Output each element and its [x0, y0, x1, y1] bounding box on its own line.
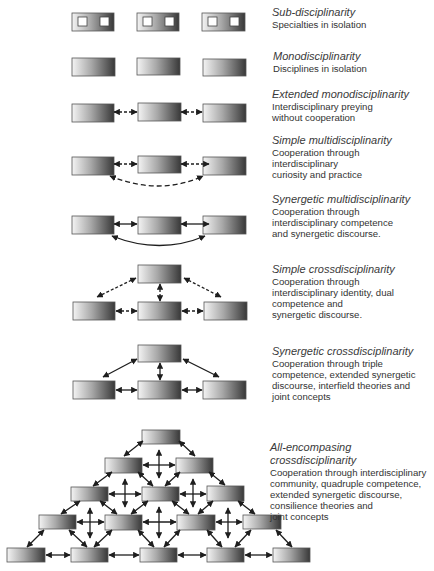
specialty-box [202, 13, 245, 31]
level-description: Cooperation through interdisciplinary id… [272, 276, 395, 320]
sub-disciplinarity-boxes [72, 13, 245, 31]
level-title: Simple multidisciplinarity [272, 134, 392, 147]
level-title: Synergetic multidisciplinarity [272, 193, 410, 206]
label-synergetic-multidisciplinarity: Synergetic multidisciplinarity Cooperati… [272, 193, 410, 239]
level-description: Interdisciplinary preying without cooper… [272, 101, 409, 123]
all-encompassing-pyramid [7, 430, 310, 562]
level-title: Monodisciplinarity [273, 50, 367, 63]
level-description: Specialties in isolation [272, 19, 366, 30]
level-title: Simple crossdisciplinarity [272, 263, 395, 276]
level-description: Cooperation through triple competence, e… [272, 358, 415, 402]
specialty-box [72, 13, 114, 31]
simple-crossdisciplinarity [73, 265, 247, 320]
extended-monodisciplinarity [72, 103, 246, 122]
level-title: Sub-disciplinarity [272, 6, 366, 19]
synergetic-crossdisciplinarity [73, 345, 246, 399]
level-title: All-encompasing crossdisciplinarity [270, 441, 434, 467]
synergetic-multidisciplinarity [72, 216, 246, 246]
level-description: Cooperation through interdisciplinary co… [270, 467, 434, 522]
specialty-box [137, 13, 179, 31]
label-all-encompassing-crossdisciplinarity: All-encompasing crossdisciplinarity Coop… [270, 441, 434, 522]
label-sub-disciplinarity: Sub-disciplinarity Specialties in isolat… [272, 6, 366, 30]
label-extended-monodisciplinarity: Extended monodisciplinarity Interdiscipl… [272, 88, 409, 123]
level-description: Cooperation through interdisciplinary cu… [272, 147, 392, 180]
simple-multidisciplinarity [72, 156, 246, 186]
level-description: Cooperation through interdisciplinary co… [272, 206, 410, 239]
label-monodisciplinarity: Monodisciplinarity Disciplines in isolat… [273, 50, 367, 74]
label-synergetic-crossdisciplinarity: Synergetic crossdisciplinarity Cooperati… [272, 345, 415, 402]
monodisciplinarity-boxes [72, 58, 246, 76]
label-simple-multidisciplinarity: Simple multidisciplinarity Cooperation t… [272, 134, 392, 180]
level-description: Disciplines in isolation [273, 63, 367, 74]
level-title: Synergetic crossdisciplinarity [272, 345, 415, 358]
label-simple-crossdisciplinarity: Simple crossdisciplinarity Cooperation t… [272, 263, 395, 320]
level-title: Extended monodisciplinarity [272, 88, 409, 101]
